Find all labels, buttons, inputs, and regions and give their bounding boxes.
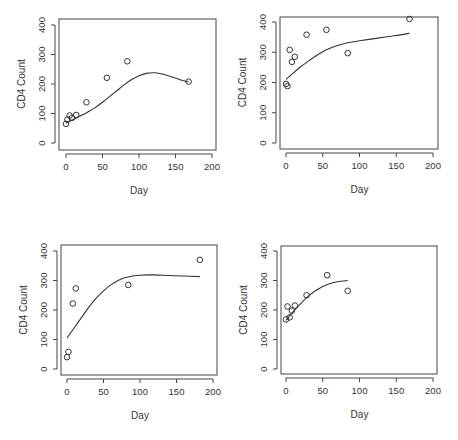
x-tick-label: 0: [283, 385, 288, 396]
x-axis-label: Day: [351, 184, 369, 195]
y-tick-label: 200: [36, 76, 47, 92]
x-tick-label: 150: [388, 385, 404, 396]
data-point: [197, 257, 203, 263]
x-tick-label: 150: [168, 161, 184, 172]
x-tick-label: 100: [132, 386, 148, 397]
x-tick-label: 150: [388, 160, 404, 171]
chart-panel-top-right: 050100150200Day0100200300400CD4 Count: [229, 0, 458, 220]
x-tick-label: 50: [97, 161, 108, 172]
fitted-curve: [66, 73, 189, 123]
x-tick-label: 200: [425, 385, 441, 396]
y-tick-label: 300: [38, 273, 49, 289]
y-tick-label: 200: [38, 302, 49, 318]
x-axis: 050100150200: [64, 379, 221, 397]
y-axis-label: CD4 Count: [238, 285, 249, 335]
x-tick-label: 200: [204, 161, 220, 172]
x-tick-label: 50: [317, 385, 328, 396]
fitted-curve: [67, 275, 200, 338]
data-point: [64, 354, 70, 360]
data-point: [287, 47, 293, 53]
data-points: [283, 16, 412, 89]
plot-frame: [59, 19, 216, 150]
x-tick-label: 50: [98, 386, 109, 397]
data-points: [283, 272, 350, 322]
y-tick-label: 100: [258, 332, 269, 348]
y-tick-label: 200: [257, 75, 268, 91]
y-axis: 0100200300400: [38, 243, 57, 372]
y-tick-label: 0: [38, 366, 49, 371]
chart-panel-bottom-left: 050100150200Day0100200300400CD4 Count: [0, 220, 229, 440]
x-tick-label: 200: [205, 386, 221, 397]
y-tick-label: 100: [38, 332, 49, 348]
y-axis: 0100200300400: [36, 17, 55, 146]
data-point: [70, 301, 76, 307]
data-point: [125, 58, 131, 64]
x-tick-label: 200: [425, 160, 441, 171]
y-tick-label: 400: [258, 243, 269, 259]
data-points: [63, 58, 191, 126]
data-point: [292, 54, 298, 60]
y-axis-label: CD4 Count: [16, 59, 27, 109]
x-axis: 050100150200: [63, 154, 220, 172]
scatter-plot: 050100150200Day0100200300400CD4 Count: [0, 220, 229, 440]
data-point: [345, 50, 351, 56]
data-point: [324, 272, 330, 278]
chart-panel-top-left: 050100150200Day0100200300400CD4 Count: [0, 0, 229, 220]
x-axis-label: Day: [351, 409, 369, 420]
x-tick-label: 100: [352, 385, 368, 396]
y-axis: 0100200300400: [258, 243, 277, 372]
y-tick-label: 0: [257, 140, 268, 145]
scatter-plot: 050100150200Day0100200300400CD4 Count: [0, 0, 229, 220]
figure: 050100150200Day0100200300400CD4 Count 05…: [0, 0, 458, 440]
x-tick-label: 150: [169, 386, 185, 397]
data-point: [126, 282, 132, 288]
y-tick-label: 300: [257, 44, 268, 60]
x-axis-label: Day: [130, 185, 148, 196]
data-point: [289, 59, 295, 65]
x-tick-label: 100: [352, 160, 368, 171]
y-tick-label: 0: [258, 366, 269, 371]
y-tick-label: 100: [257, 105, 268, 121]
plot-frame: [61, 245, 217, 375]
scatter-plot: 050100150200Day0100200300400CD4 Count: [229, 0, 458, 220]
data-point: [73, 112, 79, 118]
y-axis-label: CD4 Count: [237, 58, 248, 108]
y-tick-label: 400: [257, 14, 268, 30]
data-point: [73, 286, 79, 292]
data-points: [64, 257, 202, 360]
data-point: [84, 99, 90, 105]
data-point: [66, 349, 72, 355]
y-tick-label: 200: [258, 302, 269, 318]
scatter-plot: 050100150200Day0100200300400CD4 Count: [229, 220, 458, 440]
x-tick-label: 0: [63, 161, 68, 172]
x-tick-label: 0: [283, 160, 288, 171]
x-axis: 050100150200: [283, 153, 441, 171]
data-point: [304, 32, 310, 38]
data-point: [324, 27, 330, 33]
y-tick-label: 400: [38, 243, 49, 259]
x-tick-label: 0: [64, 386, 69, 397]
chart-panel-bottom-right: 050100150200Day0100200300400CD4 Count: [229, 220, 458, 440]
y-axis: 0100200300400: [257, 14, 276, 146]
fitted-curve: [286, 281, 348, 321]
x-tick-label: 100: [131, 161, 147, 172]
plot-frame: [280, 17, 438, 149]
data-point: [345, 288, 351, 294]
y-tick-label: 100: [36, 106, 47, 122]
y-tick-label: 0: [36, 140, 47, 145]
x-axis: 050100150200: [283, 378, 441, 396]
data-point: [292, 303, 298, 309]
y-tick-label: 400: [36, 17, 47, 33]
y-tick-label: 300: [258, 273, 269, 289]
y-axis-label: CD4 Count: [18, 285, 29, 335]
x-axis-label: Day: [131, 410, 149, 421]
plot-frame: [281, 246, 437, 374]
y-tick-label: 300: [36, 47, 47, 63]
data-point: [104, 75, 110, 81]
x-tick-label: 50: [317, 160, 328, 171]
